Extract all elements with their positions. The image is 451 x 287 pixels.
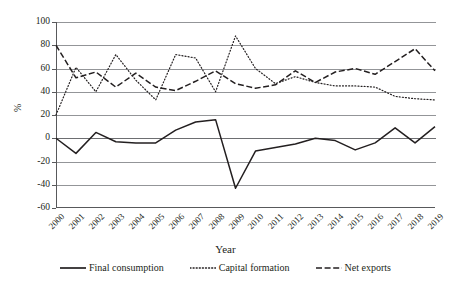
y-tick-mark xyxy=(52,208,56,209)
grid-line xyxy=(57,22,436,23)
grid-line xyxy=(57,138,436,139)
y-tick-label: -40 xyxy=(8,180,50,190)
y-tick-label: -20 xyxy=(8,157,50,167)
line-chart: % Year Final consumptionCapital formatio… xyxy=(0,0,451,287)
legend-item[interactable]: Final consumption xyxy=(60,262,164,273)
y-tick-mark xyxy=(52,138,56,139)
y-tick-mark xyxy=(52,162,56,163)
x-axis-title: Year xyxy=(0,243,451,255)
y-tick-label: 40 xyxy=(8,87,50,97)
legend-swatch-dotted xyxy=(190,264,216,272)
y-tick-label: 60 xyxy=(8,64,50,74)
legend-swatch-dashed xyxy=(316,264,342,272)
grid-line xyxy=(57,185,436,186)
y-tick-mark xyxy=(52,45,56,46)
legend-label: Capital formation xyxy=(219,262,290,273)
grid-line xyxy=(57,115,436,116)
grid-line xyxy=(57,45,436,46)
grid-line xyxy=(57,92,436,93)
legend-label: Net exports xyxy=(345,262,391,273)
y-tick-mark xyxy=(52,22,56,23)
chart-legend: Final consumptionCapital formationNet ex… xyxy=(0,262,451,273)
y-tick-label: 80 xyxy=(8,40,50,50)
plot-area xyxy=(56,22,435,208)
legend-label: Final consumption xyxy=(89,262,164,273)
y-tick-mark xyxy=(52,92,56,93)
y-tick-mark xyxy=(52,69,56,70)
y-tick-label: 20 xyxy=(8,110,50,120)
legend-item[interactable]: Net exports xyxy=(316,262,391,273)
grid-line xyxy=(57,69,436,70)
y-tick-label: 100 xyxy=(8,17,50,27)
y-tick-label: -60 xyxy=(8,203,50,213)
y-tick-mark xyxy=(52,185,56,186)
grid-line xyxy=(57,162,436,163)
legend-item[interactable]: Capital formation xyxy=(190,262,290,273)
y-tick-mark xyxy=(52,115,56,116)
y-tick-label: 0 xyxy=(8,133,50,143)
legend-swatch-solid xyxy=(60,264,86,272)
